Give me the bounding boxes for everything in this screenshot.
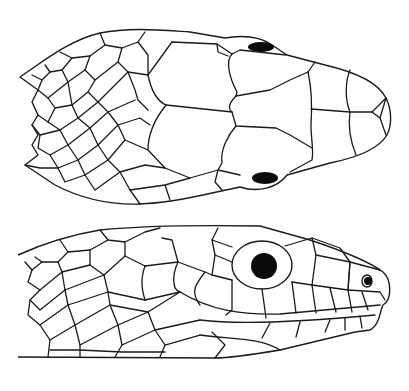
snake-head-illustration xyxy=(0,0,409,391)
lateral-eye xyxy=(251,253,277,279)
dorsal-eye-top xyxy=(248,42,274,52)
lateral-view xyxy=(18,226,390,358)
dorsal-eye-bottom xyxy=(252,172,278,184)
dorsal-view xyxy=(20,29,391,204)
lateral-nostril xyxy=(364,277,372,285)
illustration-canvas xyxy=(0,0,409,391)
